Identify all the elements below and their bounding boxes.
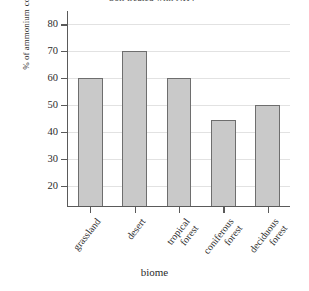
x-tick-mark: [90, 207, 91, 213]
gridline: [68, 24, 290, 25]
plot-area: [68, 11, 290, 207]
y-tick-label: 20: [34, 181, 58, 191]
y-tick-mark: [61, 159, 68, 160]
y-tick-label: 60: [34, 73, 58, 83]
y-tick-label: 50: [34, 100, 58, 110]
category-label-line: grassland: [71, 216, 103, 253]
x-tick-mark: [268, 207, 269, 213]
y-tick-mark: [61, 24, 68, 25]
y-tick-label: 70: [34, 46, 58, 56]
y-axis-line: [67, 11, 68, 207]
y-tick-label: 80: [34, 19, 58, 29]
bar: [167, 78, 192, 207]
y-tick-mark: [61, 78, 68, 79]
bar: [211, 120, 236, 207]
bar-chart-figure: Soil treated with NH4+ % of ammonium con…: [0, 0, 309, 291]
y-tick-mark: [61, 132, 68, 133]
y-axis-title: % of ammonium converted to nitrate: [12, 0, 40, 68]
y-tick-mark: [61, 51, 68, 52]
bar: [122, 51, 147, 207]
x-tick-mark: [223, 207, 224, 213]
y-tick-mark: [61, 186, 68, 187]
category-label-line: desert: [124, 216, 147, 242]
gridline: [68, 51, 290, 52]
y-tick-label: 30: [34, 154, 58, 164]
bar: [255, 105, 280, 207]
y-tick-mark: [61, 105, 68, 106]
x-tick-mark: [135, 207, 136, 213]
x-axis-title: biome: [0, 266, 309, 278]
y-tick-label: 40: [34, 127, 58, 137]
chart-title: Soil treated with NH4+: [0, 0, 309, 3]
y-axis-title-line1: % of ammonium: [21, 9, 31, 70]
x-tick-mark: [179, 207, 180, 213]
bar: [78, 78, 103, 207]
